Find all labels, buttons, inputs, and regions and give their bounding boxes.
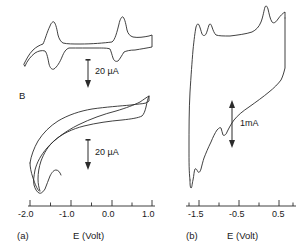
panel-b-cv-trace: [189, 6, 285, 188]
panel-a-axis: [28, 200, 155, 206]
panel-b-axis: [186, 200, 296, 206]
panel-a-tick-label-1: -2.0: [18, 210, 34, 219]
panel-b-tick-label-3: 0.5: [272, 210, 285, 219]
panel-a-lower-scalebar-label: 20 µA: [95, 148, 119, 157]
panel-a-axis-title: E (Volt): [73, 231, 104, 241]
panel-b-tick-label-1: -1.5: [188, 210, 204, 219]
panel-a-upper-scalebar-label: 20 µA: [95, 67, 119, 76]
panel-a-upper-scalebar: [85, 59, 91, 88]
panel-a-lower-cv-trace: [30, 96, 149, 193]
panel-b-scalebar-label: 1mA: [240, 119, 259, 128]
cyclic-voltammetry-figure: B 20 µA 20 µA 1mA -2.0 -1.0 0.0 1.0 -1.5…: [0, 0, 307, 251]
panel-a-tick-label-4: 1.0: [142, 210, 155, 219]
panel-b-tick-label-2: -0.5: [229, 210, 245, 219]
series-label-b: B: [19, 91, 25, 101]
panel-a-tick-label-2: -1.0: [59, 210, 75, 219]
panel-label-b: (b): [186, 231, 198, 241]
panel-b-axis-title: E (Volt): [227, 231, 258, 241]
panel-label-a: (a): [17, 231, 29, 241]
panel-a-tick-label-3: 0.0: [102, 210, 115, 219]
panel-a-lower-scalebar: [85, 139, 91, 170]
panel-b-scalebar: [229, 100, 235, 148]
